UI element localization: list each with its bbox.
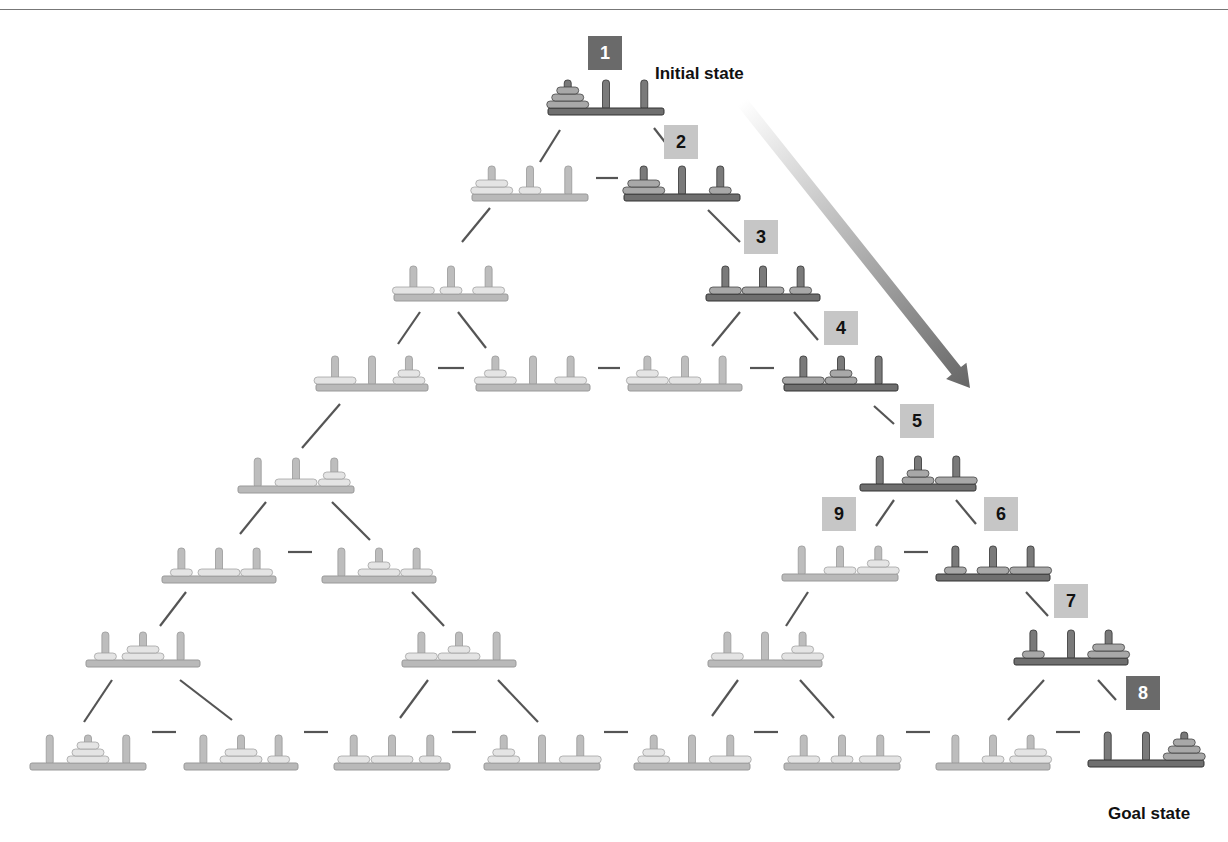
- disk: [825, 377, 857, 384]
- puzzle-state-s1: [547, 80, 664, 115]
- peg: [762, 632, 769, 662]
- base-bar: [238, 486, 354, 493]
- disk: [473, 287, 505, 294]
- peg: [338, 548, 345, 578]
- edge-line: [498, 680, 538, 722]
- disk: [711, 653, 743, 660]
- disk: [669, 377, 701, 384]
- disk: [323, 472, 345, 479]
- disk: [127, 646, 159, 653]
- edge-line: [794, 312, 818, 340]
- base-bar: [184, 763, 298, 770]
- puzzle-state-s3L: [392, 266, 508, 301]
- disk: [72, 749, 104, 756]
- disk: [474, 377, 516, 384]
- disk: [401, 569, 433, 576]
- disk: [859, 756, 901, 763]
- base-bar: [634, 763, 750, 770]
- base-bar: [860, 484, 976, 491]
- disk: [122, 653, 164, 660]
- disk: [368, 562, 390, 569]
- puzzle-state-r7a: [708, 632, 824, 667]
- disk: [709, 187, 731, 194]
- disk: [636, 370, 658, 377]
- peg: [798, 546, 805, 576]
- base-bar: [316, 384, 428, 391]
- disk: [782, 653, 824, 660]
- disk: [393, 377, 425, 384]
- disk: [626, 377, 668, 384]
- disk: [782, 377, 824, 384]
- disk: [555, 377, 587, 384]
- hanoi-state-graph: [0, 0, 1228, 842]
- base-bar: [628, 384, 742, 391]
- disk: [338, 756, 370, 763]
- disk: [709, 287, 741, 294]
- disk: [438, 653, 480, 660]
- puzzle-state-s2L: [471, 166, 588, 201]
- disk: [857, 567, 899, 574]
- disk: [1088, 651, 1130, 658]
- peg: [369, 356, 376, 386]
- disk: [471, 187, 513, 194]
- base-bar: [936, 763, 1050, 770]
- disk: [440, 287, 462, 294]
- peg: [530, 356, 537, 386]
- edge-line: [956, 500, 976, 524]
- peg: [539, 735, 546, 765]
- puzzle-state-s6: [936, 546, 1052, 581]
- base-bar: [1088, 760, 1204, 767]
- base-bar: [936, 574, 1050, 581]
- disk: [1168, 746, 1200, 753]
- base-bar: [706, 294, 820, 301]
- puzzle-state-r4c: [626, 356, 742, 391]
- puzzle-state-s4: [782, 356, 898, 391]
- step-badge-4: 4: [824, 311, 858, 345]
- disk: [275, 479, 317, 486]
- puzzle-state-l5: [238, 458, 354, 493]
- base-bar: [484, 763, 600, 770]
- disk: [268, 756, 290, 763]
- peg: [177, 632, 184, 662]
- disk: [519, 187, 541, 194]
- edge-line: [540, 130, 560, 162]
- disk: [831, 756, 853, 763]
- puzzle-state-s2: [623, 166, 740, 201]
- peg: [679, 166, 686, 196]
- disk: [792, 646, 814, 653]
- step-badge-9: 9: [822, 497, 856, 531]
- edge-line: [84, 680, 112, 722]
- edge-line: [1026, 592, 1048, 616]
- step-badge-3: 3: [744, 220, 778, 254]
- puzzle-state-l7a: [86, 632, 200, 667]
- disk: [623, 187, 665, 194]
- peg: [1104, 732, 1111, 762]
- step-badge-8: 8: [1126, 676, 1160, 710]
- base-bar: [1014, 658, 1128, 665]
- puzzle-state-l7b: [402, 632, 516, 667]
- disk: [638, 756, 670, 763]
- peg: [254, 458, 261, 488]
- edge-line: [160, 592, 186, 626]
- disk: [94, 653, 116, 660]
- disk: [977, 567, 1009, 574]
- puzzle-state-b4: [484, 735, 601, 770]
- edge-line: [412, 592, 444, 626]
- base-bar: [784, 384, 898, 391]
- base-bar: [624, 194, 740, 201]
- edge-line: [240, 502, 266, 534]
- disk: [1010, 567, 1052, 574]
- peg: [603, 80, 610, 110]
- disk: [1093, 644, 1125, 651]
- disk: [824, 567, 856, 574]
- base-bar: [334, 763, 450, 770]
- disk: [314, 377, 356, 384]
- disk: [935, 477, 977, 484]
- peg: [689, 735, 696, 765]
- puzzle-state-b6: [784, 735, 901, 770]
- edge-line: [458, 312, 486, 348]
- puzzle-state-s5: [860, 456, 977, 491]
- edge-line: [786, 592, 808, 626]
- base-bar: [30, 763, 146, 770]
- disk: [398, 370, 420, 377]
